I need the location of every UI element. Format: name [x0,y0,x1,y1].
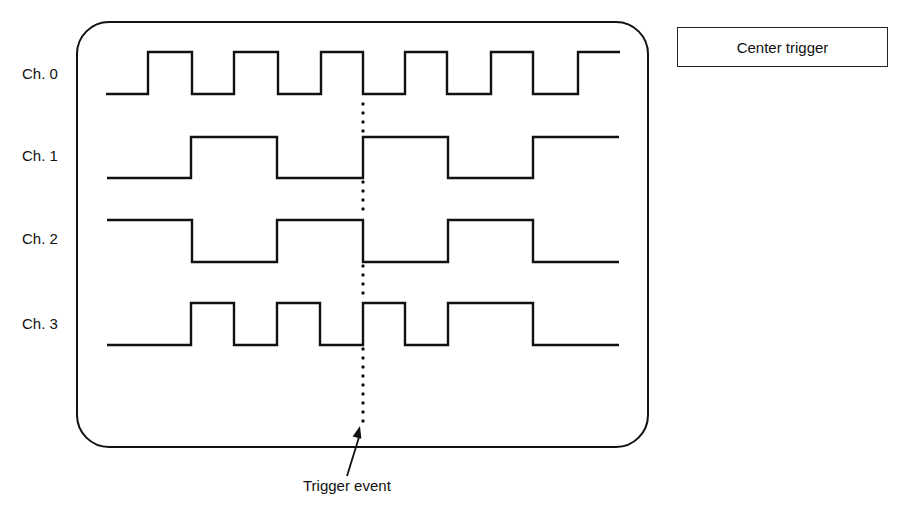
channel-label-1: Ch. 1 [22,147,58,164]
channel-label-2: Ch. 2 [22,230,58,247]
waveform-ch-0 [106,52,620,94]
channel-label-3: Ch. 3 [22,315,58,332]
trigger-event-label: Trigger event [303,477,391,494]
trigger-mode-label: Center trigger [737,39,829,56]
waveform-ch-1 [107,137,619,178]
waveform-ch-3 [107,303,619,345]
trigger-mode-box: Center trigger [677,27,888,67]
waveform-ch-2 [107,220,619,262]
channel-label-0: Ch. 0 [22,65,58,82]
timing-diagram: Ch. 0 Ch. 1 Ch. 2 Ch. 3 Center trigger T… [0,0,906,510]
trigger-arrow-icon [347,426,361,476]
diagram-canvas [0,0,906,510]
